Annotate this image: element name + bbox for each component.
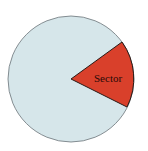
sector-diagram: Sector <box>0 0 148 151</box>
sector-label: Sector <box>94 72 122 84</box>
